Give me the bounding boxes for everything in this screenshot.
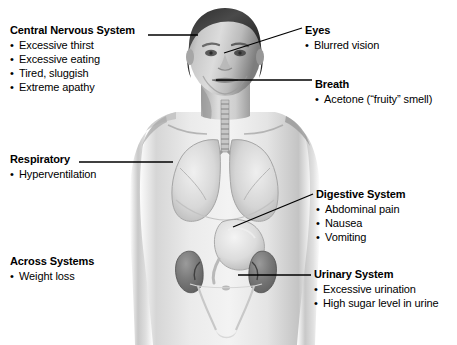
pupil-left <box>209 51 212 54</box>
callout-list-central-nervous-system: Excessive thirst Excessive eating Tired,… <box>10 38 135 94</box>
callout-respiratory: Respiratory Hyperventilation <box>10 153 96 181</box>
callout-item: Hyperventilation <box>10 167 96 181</box>
human-figure <box>130 8 320 345</box>
ear-right <box>256 49 264 65</box>
callout-item: Tired, sluggish <box>10 66 135 80</box>
callout-item: Excessive thirst <box>10 38 135 52</box>
callout-item: Extreme apathy <box>10 80 135 94</box>
callout-item: Abdominal pain <box>316 202 406 216</box>
callout-title-eyes: Eyes <box>305 24 379 37</box>
callout-title-breath: Breath <box>315 78 432 91</box>
callout-list-urinary-system: Excessive urination High sugar level in … <box>314 282 439 310</box>
callout-item: Acetone (“fruity” smell) <box>315 92 432 106</box>
callout-urinary-system: Urinary System Excessive urination High … <box>314 268 439 310</box>
callout-title-central-nervous-system: Central Nervous System <box>10 24 135 37</box>
callout-digestive-system: Digestive System Abdominal pain Nausea V… <box>316 188 406 244</box>
callout-item: Excessive urination <box>314 282 439 296</box>
callout-item: Nausea <box>316 216 406 230</box>
callout-item: Vomiting <box>316 230 406 244</box>
callout-title-across-systems: Across Systems <box>10 255 94 268</box>
callout-central-nervous-system: Central Nervous System Excessive thirst … <box>10 24 135 94</box>
callout-item: Blurred vision <box>305 38 379 52</box>
callout-breath: Breath Acetone (“fruity” smell) <box>315 78 432 106</box>
callout-eyes: Eyes Blurred vision <box>305 24 379 52</box>
callout-list-respiratory: Hyperventilation <box>10 167 96 181</box>
callout-title-urinary-system: Urinary System <box>314 268 439 281</box>
callout-title-respiratory: Respiratory <box>10 153 96 166</box>
callout-across-systems: Across Systems Weight loss <box>10 255 94 283</box>
callout-list-breath: Acetone (“fruity” smell) <box>315 92 432 106</box>
callout-item: High sugar level in urine <box>314 296 439 310</box>
callout-list-digestive-system: Abdominal pain Nausea Vomiting <box>316 202 406 244</box>
pupil-right <box>238 51 241 54</box>
callout-list-across-systems: Weight loss <box>10 269 94 283</box>
ear-left <box>186 49 194 65</box>
callout-title-digestive-system: Digestive System <box>316 188 406 201</box>
callout-list-eyes: Blurred vision <box>305 38 379 52</box>
callout-item: Excessive eating <box>10 52 135 66</box>
callout-item: Weight loss <box>10 269 94 283</box>
